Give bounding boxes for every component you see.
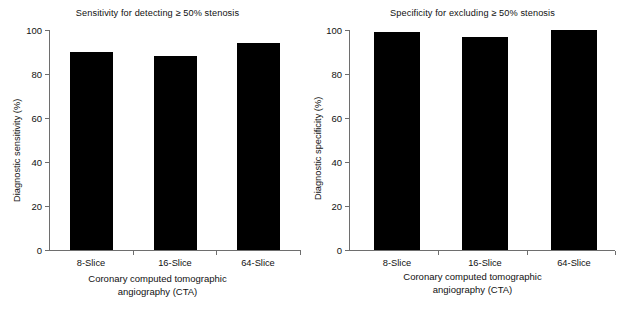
x-axis-label-line2-specificity: angiography (CTA) [315, 283, 630, 296]
figure-two-panel-bar-charts: Sensitivity for detecting ≥ 50% stenosis… [0, 0, 630, 312]
x-tick-3 [615, 251, 616, 255]
bar-64-slice [237, 43, 280, 250]
y-tick-label-20: 20 [16, 202, 42, 212]
y-tick-label-20: 20 [316, 202, 342, 212]
bar-16-slice [462, 37, 508, 250]
y-axis-line [49, 30, 50, 251]
x-tick-1 [438, 251, 439, 255]
bar-8-slice [374, 32, 420, 250]
y-tick-label-100: 100 [316, 26, 342, 36]
y-tick-40 [45, 162, 49, 163]
x-tick-label-16-slice: 16-Slice [140, 258, 210, 268]
panel-specificity: Specificity for excluding ≥ 50% stenosis… [315, 0, 630, 312]
y-tick-20 [45, 206, 49, 207]
x-axis-label-line1-specificity: Coronary computed tomographic [315, 270, 630, 283]
y-tick-40 [345, 162, 349, 163]
x-tick-label-8-slice: 8-Slice [56, 258, 126, 268]
x-tick-2 [527, 251, 528, 255]
x-axis-label-line1-sensitivity: Coronary computed tomographic [0, 272, 315, 285]
x-tick-3 [300, 251, 301, 255]
plot-area-specificity: 100 80 60 40 20 0 8-Slice 16-Slice 64-Sl… [315, 0, 630, 312]
x-tick-label-64-slice: 64-Slice [223, 258, 293, 268]
y-axis-line [349, 30, 350, 251]
y-tick-20 [345, 206, 349, 207]
x-tick-label-64-slice: 64-Slice [539, 258, 609, 268]
y-tick-label-80: 80 [316, 70, 342, 80]
y-tick-label-0: 0 [316, 246, 342, 256]
panel-sensitivity: Sensitivity for detecting ≥ 50% stenosis… [0, 0, 315, 312]
x-axis-line [49, 250, 301, 251]
y-tick-0 [45, 250, 49, 251]
y-tick-80 [345, 74, 349, 75]
x-tick-label-8-slice: 8-Slice [362, 258, 432, 268]
y-tick-80 [45, 74, 49, 75]
y-axis-label-sensitivity: Diagnostic sensitivity (%) [12, 99, 22, 202]
y-tick-label-80: 80 [16, 70, 42, 80]
plot-area-sensitivity: 100 80 60 40 20 0 8-Slice 16-Slice 64-Sl… [0, 0, 315, 312]
bar-8-slice [70, 52, 113, 250]
y-tick-label-0: 0 [16, 246, 42, 256]
y-tick-60 [45, 118, 49, 119]
y-tick-100 [45, 30, 49, 31]
x-tick-label-16-slice: 16-Slice [450, 258, 520, 268]
x-axis-label-line2-sensitivity: angiography (CTA) [0, 285, 315, 298]
x-tick-1 [133, 251, 134, 255]
x-tick-2 [216, 251, 217, 255]
y-tick-label-100: 100 [16, 26, 42, 36]
y-tick-100 [345, 30, 349, 31]
bar-64-slice [551, 30, 597, 250]
y-tick-0 [345, 250, 349, 251]
y-axis-label-specificity: Diagnostic specificity (%) [313, 97, 323, 200]
x-axis-line [349, 250, 615, 251]
bar-16-slice [154, 56, 197, 250]
y-tick-60 [345, 118, 349, 119]
